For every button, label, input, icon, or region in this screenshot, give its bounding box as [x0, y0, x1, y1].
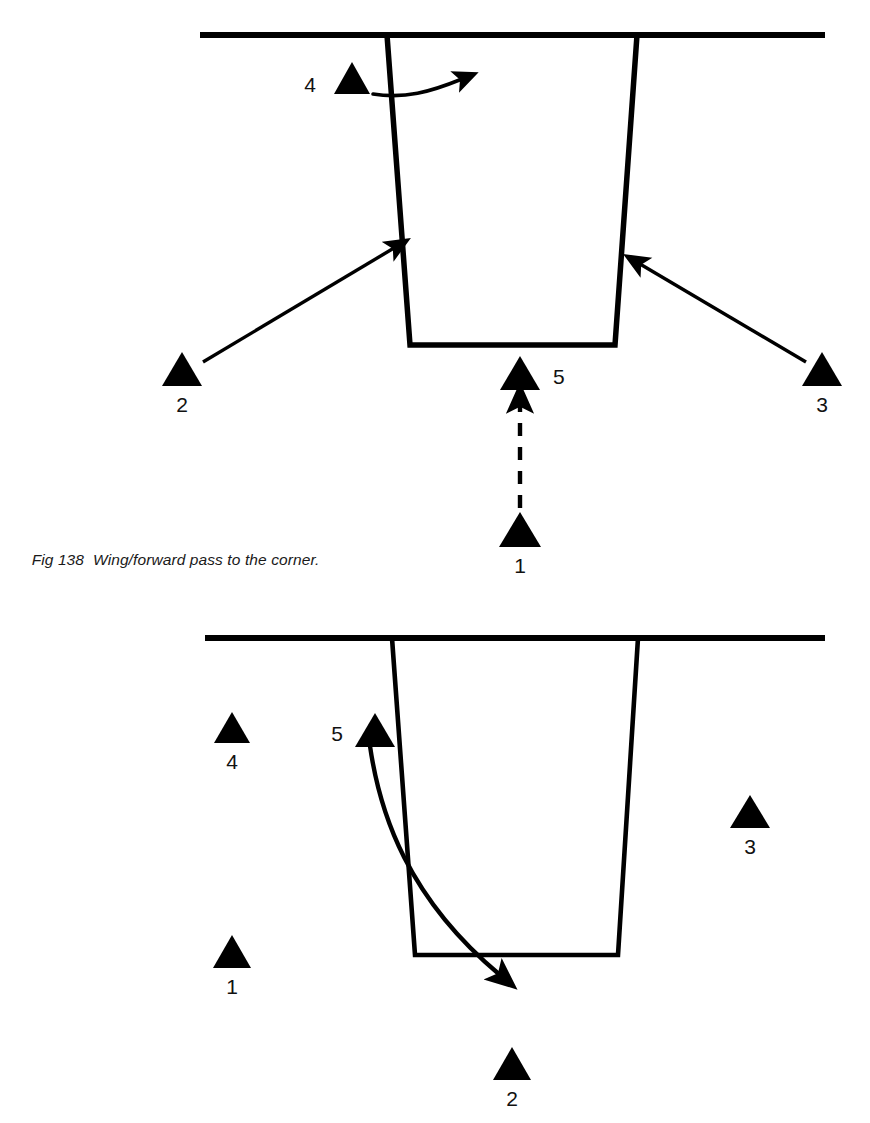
- diagram-bottom-canvas: 4 5 3 1 2: [0, 600, 870, 1123]
- player-label-5: 5: [553, 365, 565, 388]
- player-2: 2: [162, 352, 202, 416]
- player-1: 1: [499, 512, 541, 577]
- player-triangle: [355, 713, 395, 747]
- player-5: 5: [500, 356, 565, 390]
- movement-arrow-player-3: [640, 264, 806, 362]
- player-triangle: [214, 712, 250, 743]
- goalie-trapezoid: [387, 35, 637, 345]
- player-label-1: 1: [514, 554, 526, 577]
- figure-caption: Fig 138Wing/forward pass to the corner.: [14, 533, 320, 587]
- player-triangle: [500, 356, 540, 390]
- player-label-4: 4: [226, 750, 238, 773]
- player-label-3: 3: [744, 835, 756, 858]
- player-triangle: [162, 352, 202, 386]
- diagram-bottom-wing-forward-pass-followup: 4 5 3 1 2: [0, 600, 870, 1123]
- diagram-top-canvas: 4 2 3 5: [0, 0, 870, 590]
- player-4: 4: [304, 62, 370, 96]
- player-label-5: 5: [331, 722, 343, 745]
- figure-caption-text: Wing/forward pass to the corner.: [93, 551, 319, 568]
- player-label-2: 2: [506, 1087, 518, 1110]
- movement-arrow-player-4: [373, 79, 462, 96]
- player-label-4: 4: [304, 73, 316, 96]
- diagram-top-wing-forward-pass: 4 2 3 5: [0, 0, 870, 590]
- player-3: 3: [730, 795, 770, 858]
- player-triangle: [802, 352, 842, 386]
- player-2: 2: [493, 1047, 531, 1110]
- player-label-3: 3: [816, 393, 828, 416]
- player-label-1: 1: [226, 975, 238, 998]
- player-5: 5: [331, 713, 395, 747]
- player-1: 1: [213, 935, 251, 998]
- player-3: 3: [802, 352, 842, 416]
- player-triangle: [213, 935, 251, 968]
- player-triangle: [493, 1047, 531, 1080]
- player-triangle: [730, 795, 770, 828]
- movement-arrow-player-5: [370, 746, 500, 975]
- player-triangle: [334, 62, 370, 94]
- goalie-trapezoid: [392, 638, 638, 955]
- player-4: 4: [214, 712, 250, 773]
- figure-number: Fig 138: [32, 551, 84, 568]
- figure-page: 4 2 3 5: [0, 0, 870, 1123]
- player-triangle: [499, 512, 541, 547]
- movement-arrow-player-2: [203, 248, 394, 362]
- player-label-2: 2: [176, 393, 188, 416]
